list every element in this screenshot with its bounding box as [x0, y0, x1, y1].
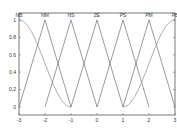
label-nb: NB	[16, 12, 24, 18]
label-ps: PS	[120, 12, 127, 18]
label-pm: PM	[145, 12, 153, 18]
x-tick-label: -3	[17, 117, 22, 123]
x-tick-label: 3	[174, 117, 177, 123]
y-tick-label: 0.6	[9, 52, 16, 58]
y-tick-label: 0.8	[9, 34, 16, 40]
x-tick-label: 0	[96, 117, 99, 123]
label-pb: PB	[172, 12, 177, 18]
membership-function-chart: -3-2-10123 00.20.40.60.81 NBNMNSZEPSPMPB	[0, 0, 177, 128]
y-tick-label: 0.4	[9, 69, 16, 75]
x-tick-label: 1	[122, 117, 125, 123]
y-tick-label: 0.2	[9, 86, 16, 92]
label-ze: ZE	[94, 12, 101, 18]
label-nm: NM	[41, 12, 49, 18]
label-ns: NS	[68, 12, 76, 18]
x-tick-label: -2	[43, 117, 48, 123]
x-tick-label: -1	[69, 117, 74, 123]
x-tick-label: 2	[148, 117, 151, 123]
y-tick-label: 0	[13, 104, 16, 110]
